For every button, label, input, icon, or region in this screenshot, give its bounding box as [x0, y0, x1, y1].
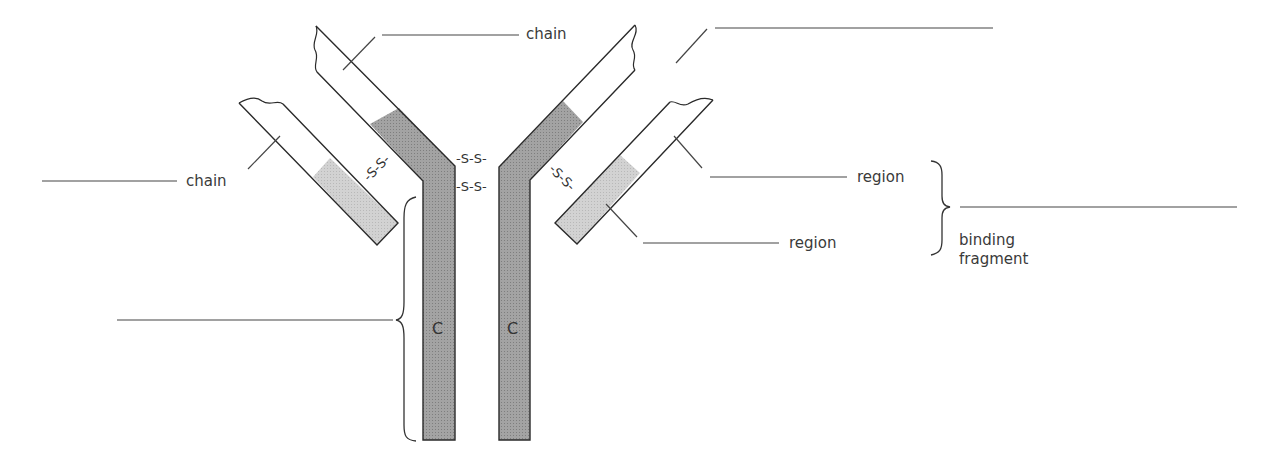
leader-light-chain-diagonal	[248, 136, 280, 169]
fc-brace	[396, 197, 416, 441]
disulfide-hinge-top: -S-S-	[456, 152, 487, 166]
left-light-constant-region	[313, 158, 398, 245]
stem-letter-left: C	[432, 319, 443, 338]
label-heavy-chain: chain	[526, 25, 567, 43]
right-light-constant-region	[555, 155, 640, 244]
leader-variable-region-diagonal	[674, 136, 702, 168]
leader-heavy-chain-diagonal	[343, 37, 375, 70]
label-fab-binding: binding	[959, 231, 1015, 249]
antibody-svg	[0, 0, 1281, 468]
label-fab-fragment: fragment	[959, 250, 1028, 268]
label-variable-region: region	[857, 168, 904, 186]
left-heavy-variable-region	[314, 26, 399, 124]
antibody-diagram: chain chain region region binding fragme…	[0, 0, 1281, 468]
stem-letter-right: C	[507, 319, 518, 338]
leader-top-right-diagonal	[676, 29, 707, 63]
right-heavy-constant-region	[499, 101, 583, 440]
leader-constant-region-diagonal	[606, 204, 637, 237]
disulfide-hinge-bottom: -S-S-	[456, 180, 487, 194]
label-constant-region: region	[789, 234, 836, 252]
label-light-chain: chain	[186, 172, 227, 190]
right-light-variable-region	[620, 98, 713, 173]
fab-brace	[931, 161, 950, 255]
